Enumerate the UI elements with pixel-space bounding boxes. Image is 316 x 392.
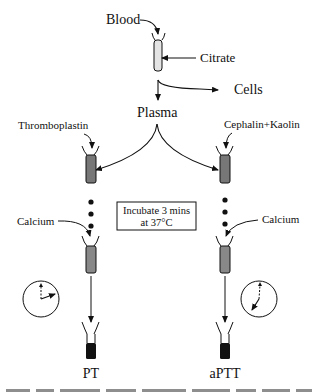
calcium-left-label: Calcium [17, 215, 55, 227]
clock-icon-aptt [241, 281, 277, 317]
citrate-label: Citrate [200, 50, 236, 65]
cells-arrow [158, 80, 218, 90]
pt-reaction-tube [82, 236, 99, 273]
aptt-reaction-tube [216, 236, 233, 273]
coagulation-test-diagram: Blood Citrate Cells Plasma Thromboplasti… [0, 0, 316, 392]
pt-reagent-tube [82, 146, 99, 183]
calcium-right-arrow [226, 220, 258, 236]
calcium-right-label: Calcium [262, 213, 300, 225]
aptt-reagent-tube [216, 146, 233, 183]
plasma-label: Plasma [137, 105, 178, 120]
blood-arrow [140, 20, 158, 34]
plasma-to-aptt-arrow [157, 124, 218, 170]
cephalin-kaolin-label: Cephalin+Kaolin [224, 118, 300, 130]
aptt-label: aPTT [209, 366, 241, 381]
incubation-dots-left [88, 199, 93, 228]
aptt-clot-tube [216, 322, 233, 359]
plasma-to-pt-arrow [96, 124, 157, 170]
pt-clot-tube [82, 322, 99, 359]
thromboplastin-label: Thromboplastin [18, 119, 89, 131]
cells-label: Cells [234, 82, 263, 97]
citrate-tube [152, 33, 165, 71]
clock-icon-pt [23, 281, 59, 317]
cephalin-kaolin-arrow [226, 133, 232, 148]
thromboplastin-arrow [84, 134, 92, 148]
blood-label: Blood [106, 12, 140, 27]
pt-label: PT [83, 366, 100, 381]
incubate-line1: Incubate 3 mins [123, 205, 190, 216]
incubation-dots-right [222, 197, 227, 226]
calcium-left-arrow [58, 221, 90, 236]
incubate-line2: at 37°C [141, 217, 173, 228]
